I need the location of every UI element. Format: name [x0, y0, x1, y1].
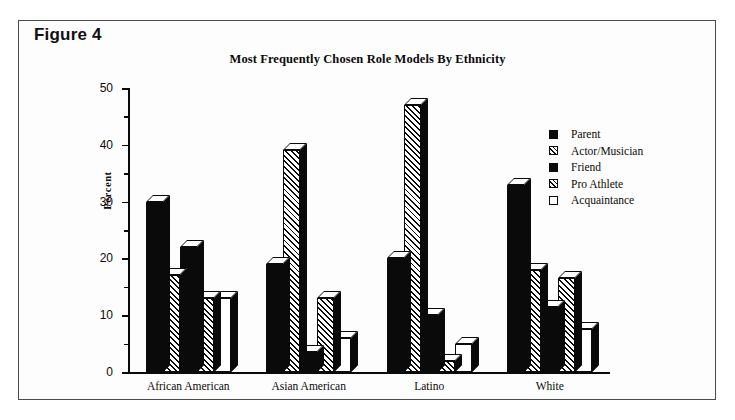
y-axis-tick-label: 50 — [100, 81, 113, 95]
bar-side-face — [197, 240, 204, 372]
bar-side-face — [283, 257, 290, 372]
legend-label: Acquaintance — [571, 194, 634, 206]
y-axis-tick-major: 40 — [122, 145, 128, 147]
legend-label: Parent — [571, 128, 600, 140]
x-axis-category-label: African American — [147, 380, 230, 392]
figure-label: Figure 4 — [34, 25, 102, 45]
bar-side-face — [438, 308, 445, 372]
bar-side-face — [575, 271, 582, 372]
bar-side-face — [180, 268, 187, 372]
y-axis-tick-major: 10 — [122, 315, 128, 317]
bar-front-face — [507, 185, 524, 372]
legend-label: Pro Athlete — [571, 178, 623, 190]
x-axis-line — [128, 372, 610, 374]
bar — [266, 264, 283, 372]
bar-side-face — [231, 291, 238, 372]
chart-title: Most Frequently Chosen Role Models By Et… — [0, 52, 735, 67]
bar-side-face — [214, 291, 221, 372]
y-axis-tick-major: 20 — [122, 258, 128, 260]
x-axis-category-label: Asian American — [272, 380, 346, 392]
plot-area: 01020304050 African AmericanAsian Americ… — [128, 88, 610, 372]
y-axis-tick-minor — [124, 173, 128, 175]
legend: ParentActor/MusicianFriendPro AthleteAcq… — [549, 126, 719, 209]
bar-side-face — [421, 98, 428, 372]
y-axis-tick-minor — [124, 230, 128, 232]
bar-side-face — [334, 291, 341, 372]
legend-item: Friend — [549, 159, 719, 176]
bar-side-face — [163, 195, 170, 372]
legend-swatch-icon — [549, 146, 558, 155]
y-axis-tick-major: 30 — [122, 202, 128, 204]
y-axis-tick-label: 20 — [100, 251, 113, 265]
bar-side-face — [524, 178, 531, 372]
x-axis-category-label: White — [536, 380, 564, 392]
y-axis-tick-label: 30 — [100, 195, 113, 209]
bar-side-face — [558, 300, 565, 372]
bar-side-face — [404, 251, 411, 372]
legend-swatch-icon — [549, 179, 558, 188]
y-axis-tick-major: 0 — [122, 372, 128, 374]
bar-side-face — [541, 263, 548, 372]
y-axis-tick-label: 40 — [100, 138, 113, 152]
bar-front-face — [146, 202, 163, 372]
y-axis-tick-minor — [124, 116, 128, 118]
y-axis-tick-label: 10 — [100, 308, 113, 322]
bar-side-face — [300, 143, 307, 372]
legend-item: Parent — [549, 126, 719, 143]
y-axis-tick-minor — [124, 287, 128, 289]
bar — [387, 258, 404, 372]
legend-swatch-icon — [549, 130, 558, 139]
y-axis-tick-major: 50 — [122, 88, 128, 90]
legend-swatch-icon — [549, 163, 558, 172]
bar — [507, 185, 524, 372]
bar-front-face — [266, 264, 283, 372]
legend-item: Pro Athlete — [549, 176, 719, 193]
bar-front-face — [387, 258, 404, 372]
y-axis-line — [128, 88, 130, 372]
legend-item: Acquaintance — [549, 192, 719, 209]
legend-item: Actor/Musician — [549, 143, 719, 160]
legend-swatch-icon — [549, 196, 558, 205]
bar — [146, 202, 163, 372]
bar-side-face — [351, 331, 358, 372]
x-axis-category-label: Latino — [414, 380, 444, 392]
legend-label: Friend — [571, 161, 601, 173]
y-axis-tick-label: 0 — [106, 365, 113, 379]
bar-side-face — [592, 322, 599, 372]
legend-label: Actor/Musician — [571, 145, 643, 157]
y-axis-tick-minor — [124, 344, 128, 346]
